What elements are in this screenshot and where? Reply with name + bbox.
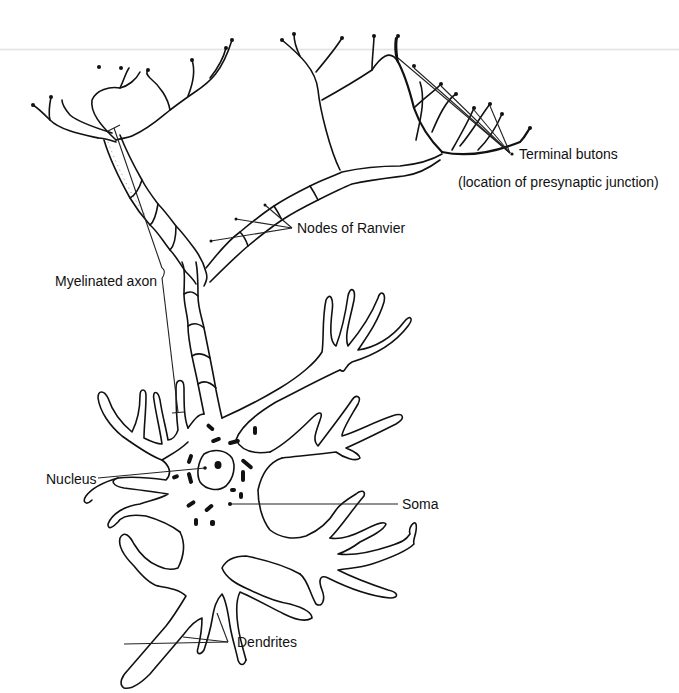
right-axon-branch: [206, 154, 442, 282]
left-terminal-branches: [31, 38, 234, 142]
nissl-bodies: [171, 423, 257, 526]
label-terminal-butons-note: (location of presynaptic junction): [458, 174, 659, 190]
nucleus: [198, 451, 234, 490]
label-myelinated-axon: Myelinated axon: [55, 273, 157, 289]
label-dendrites: Dendrites: [237, 634, 297, 650]
right-terminal-branches: [280, 32, 532, 170]
label-terminal-butons: Terminal butons: [519, 146, 618, 162]
label-nodes-of-ranvier: Nodes of Ranvier: [297, 220, 405, 236]
left-axon-branch: [104, 135, 207, 286]
label-soma: Soma: [402, 496, 439, 512]
axon-trunk: [182, 262, 222, 418]
neuron-illustration: [0, 0, 679, 693]
leader-lines: [98, 58, 514, 644]
soma-and-dendrites: [84, 290, 416, 689]
label-nucleus: Nucleus: [46, 471, 97, 487]
